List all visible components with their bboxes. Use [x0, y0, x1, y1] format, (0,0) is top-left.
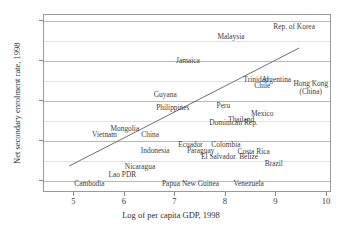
x-tick-label: 6	[109, 196, 139, 206]
y-tick-mark	[39, 20, 43, 21]
data-point-label: Peru	[217, 102, 231, 110]
data-point-label: Rep. of Korea	[273, 23, 315, 31]
data-point-label: Cambodia	[74, 180, 104, 188]
data-point-label: Venezuela	[233, 180, 263, 188]
x-tick-label: 9	[260, 196, 290, 206]
x-tick-label: 10	[311, 196, 341, 206]
y-axis-title: Net secondary enrolment rate, 1998	[12, 42, 22, 164]
data-point-label: China	[141, 131, 159, 139]
data-point-label: Hong Kong(China)	[293, 80, 328, 96]
x-axis-title: Log of per capita GDP, 1998	[0, 210, 342, 220]
data-point-label: Belize	[239, 153, 258, 161]
x-tick-label: 5	[58, 196, 88, 206]
data-point-label: Papua New Guinea	[162, 180, 219, 188]
y-tick-mark	[39, 60, 43, 61]
x-tick-mark	[326, 192, 327, 196]
data-point-label: Malaysia	[217, 33, 244, 41]
x-tick-label: 7	[159, 196, 189, 206]
data-point-label: Vietnam	[92, 131, 117, 139]
data-point-label: Brazil	[265, 160, 283, 168]
data-point-label: Colombia	[211, 141, 240, 149]
data-point-label: Lao PDR	[108, 171, 136, 179]
data-point-label: Jamaica	[176, 57, 200, 65]
x-tick-mark	[174, 192, 175, 196]
x-tick-mark	[275, 192, 276, 196]
x-tick-mark	[225, 192, 226, 196]
y-tick-mark	[39, 140, 43, 141]
data-point-label: Mexico	[251, 110, 274, 118]
data-point-label: Indonesia	[141, 147, 170, 155]
x-tick-label: 8	[210, 196, 240, 206]
data-point-label: El Salvador	[201, 153, 236, 161]
y-tick-mark	[39, 180, 43, 181]
y-tick-mark	[39, 100, 43, 101]
scatter-chart: Rep. of KoreaMalaysiaJamaicaTrinidadArge…	[0, 0, 342, 232]
plot-area: Rep. of KoreaMalaysiaJamaicaTrinidadArge…	[43, 14, 331, 192]
data-point-label: Philippines	[156, 104, 189, 112]
data-point-label: Guyana	[154, 91, 177, 99]
x-tick-mark	[73, 192, 74, 196]
data-point-label: Dominican Rep.	[209, 119, 257, 127]
data-point-label: Chile	[254, 82, 270, 90]
x-tick-mark	[124, 192, 125, 196]
